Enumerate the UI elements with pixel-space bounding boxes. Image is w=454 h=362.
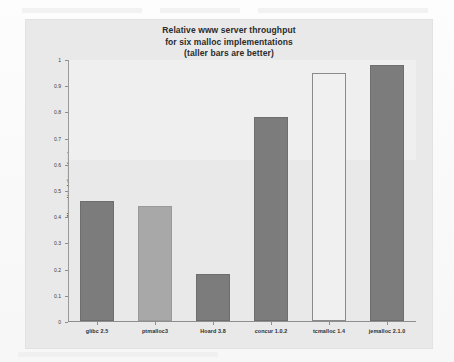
y-axis-tick: 0.9 [65,86,68,87]
bar-rect[interactable] [370,65,405,321]
bar-jemalloc-2-1-0[interactable] [370,65,405,321]
y-axis-tick: 1 [65,60,68,61]
y-axis-tick-label: 0.9 [54,83,61,89]
x-axis-line [68,321,416,322]
chart-title-line-2: for six malloc implementations [25,37,433,49]
x-axis-label: concur 1.0.2 [255,328,288,334]
y-axis-tick: 0.5 [65,191,68,192]
ghost-text-line [18,352,218,357]
y-axis-tick-label: 0.1 [54,293,61,299]
chart-title: Relative www server throughput for six m… [25,25,433,60]
y-axis-tick: 0.8 [65,112,68,113]
y-axis-tick-label: 0.3 [54,240,61,246]
plot-area: 00.10.20.30.40.50.60.70.80.91 glibc 2.5p… [68,60,416,322]
bar-glibc-2-5[interactable] [80,201,115,321]
bar-rect[interactable] [196,274,231,321]
x-axis-label: tcmalloc 1.4 [313,328,345,334]
y-axis-tick-label: 0.8 [54,109,61,115]
bar-hoard-3-8[interactable] [196,274,231,321]
bar-tcmalloc-1-4[interactable] [312,73,347,321]
chart-panel: Relative www server throughput for six m… [25,19,433,349]
x-axis-tick [271,322,272,325]
y-axis-tick: 0.1 [65,296,68,297]
bar-rect[interactable] [312,73,347,321]
chart-title-line-3: (taller bars are better) [25,48,433,60]
x-axis-label: jemalloc 2.1.0 [369,328,405,334]
y-axis-line [68,60,69,322]
x-axis-tick [97,322,98,325]
x-axis-label: ptmalloc3 [142,328,168,334]
y-axis-tick: 0.2 [65,270,68,271]
bar-rect[interactable] [254,117,289,321]
x-axis-tick [329,322,330,325]
y-axis-tick: 0.4 [65,217,68,218]
y-axis-tick: 0.3 [65,243,68,244]
y-axis-tick-label: 0.2 [54,267,61,273]
chart-title-line-1: Relative www server throughput [25,25,433,37]
y-axis-tick-label: 0.5 [54,188,61,194]
bar-rect[interactable] [80,201,115,321]
x-axis-tick [155,322,156,325]
bar-ptmalloc3[interactable] [138,206,173,321]
y-axis-tick-label: 1 [58,57,61,63]
x-axis-tick [387,322,388,325]
y-axis-tick-label: 0.6 [54,162,61,168]
x-axis-tick [213,322,214,325]
x-axis-label: glibc 2.5 [86,328,108,334]
ghost-text-line [258,8,428,13]
bar-rect[interactable] [138,206,173,321]
x-axis-label: Hoard 3.8 [200,328,225,334]
ghost-text-line [160,8,240,13]
y-axis-tick-label: 0.7 [54,136,61,142]
plot-highlight-band [68,60,416,160]
y-axis-tick: 0.7 [65,139,68,140]
y-axis-tick: 0 [65,322,68,323]
bar-concur-1-0-2[interactable] [254,117,289,321]
ghost-text-line [22,8,142,13]
y-axis-tick-label: 0 [58,319,61,325]
y-axis-tick-label: 0.4 [54,214,61,220]
y-axis-tick: 0.6 [65,165,68,166]
